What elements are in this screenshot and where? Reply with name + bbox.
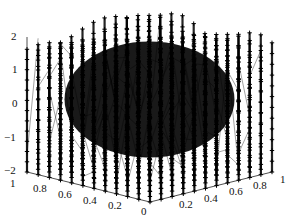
z-tick-label: 1 [12,64,18,75]
z-tick-label: −2 [4,165,16,176]
z-tick-label: 2 [11,31,17,42]
z-tick-label: −1 [4,132,16,143]
y-tick-label: 0.8 [253,180,267,191]
y-tick-label: 0.6 [229,186,243,197]
x-tick-label: 1 [10,178,16,189]
x-tick-label: 0.8 [33,183,47,194]
x-tick-label: 0 [141,206,147,217]
x-tick-label: 0.6 [58,189,72,200]
y-tick-label: 1 [280,174,286,185]
z-tick-label: 0 [12,98,18,109]
x-tick-label: 0.4 [83,195,97,206]
x-tick-label: 0.2 [108,200,122,211]
data-series [25,12,274,205]
y-tick-label: 0.4 [204,193,218,204]
y-tick-label: 0.2 [179,199,193,210]
